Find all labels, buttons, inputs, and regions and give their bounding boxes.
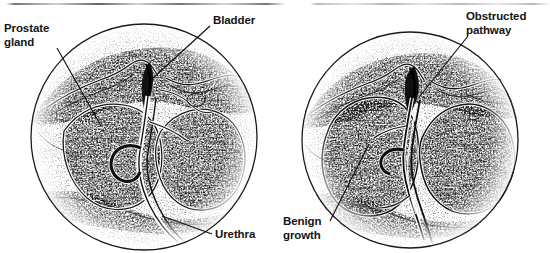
label-obstructed-pathway: Obstructed pathway <box>466 10 526 37</box>
panel-enlarged-prostate <box>295 32 530 252</box>
label-bladder: Bladder <box>213 14 255 28</box>
panel-normal-prostate <box>25 24 265 252</box>
label-prostate-gland: Prostate gland <box>4 22 49 49</box>
label-urethra: Urethra <box>215 228 255 242</box>
label-benign-growth: Benign growth <box>283 215 321 242</box>
